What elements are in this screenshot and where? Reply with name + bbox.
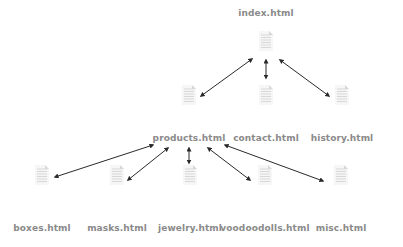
node-label-boxes: boxes.html xyxy=(13,223,70,233)
edge-index-history xyxy=(280,60,329,96)
edge-products-misc xyxy=(225,145,323,181)
node-label-masks: masks.html xyxy=(87,223,147,233)
document-icon xyxy=(182,164,198,186)
edge-products-masks xyxy=(128,148,168,180)
node-label-products: products.html xyxy=(153,133,226,143)
node-label-history: history.html xyxy=(311,133,374,143)
edges-layer xyxy=(0,0,403,247)
edge-products-voodoodolls xyxy=(208,148,250,180)
node-label-contact: contact.html xyxy=(233,133,299,143)
document-icon xyxy=(258,30,274,52)
node-label-index: index.html xyxy=(238,8,293,18)
document-icon xyxy=(34,164,50,186)
document-icon xyxy=(333,164,349,186)
node-label-misc: misc.html xyxy=(316,223,367,233)
document-icon xyxy=(109,164,125,186)
node-label-jewelry: jewelry.html xyxy=(158,223,222,233)
document-icon xyxy=(181,84,197,106)
document-icon xyxy=(257,164,273,186)
document-icon xyxy=(334,84,350,106)
edge-index-products xyxy=(201,59,252,96)
document-icon xyxy=(258,84,274,106)
node-label-voodoodolls: voodoodolls.html xyxy=(220,223,309,233)
